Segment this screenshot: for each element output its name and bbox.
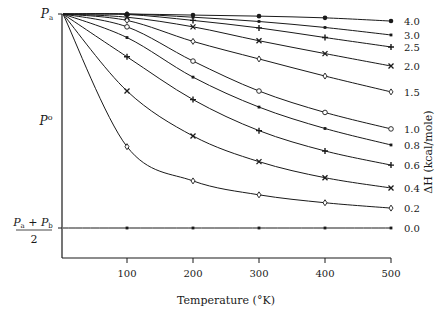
series-label: 0.2 bbox=[404, 203, 420, 214]
x-axis-label: Temperature (°K) bbox=[177, 294, 275, 307]
series-line-4.0 bbox=[63, 14, 391, 21]
y-label-p0: Po bbox=[39, 113, 53, 128]
x-tick-label: 100 bbox=[117, 268, 136, 279]
series-label: 1.0 bbox=[404, 124, 420, 135]
x-tick-label: 300 bbox=[249, 268, 268, 279]
y-label-pmid: Pa + Pb bbox=[12, 216, 53, 230]
y-ticks: PaPoPa + Pb2 bbox=[12, 7, 62, 246]
series-label: 2.0 bbox=[404, 61, 420, 72]
series-markers bbox=[124, 11, 394, 229]
series-label: 0.8 bbox=[404, 140, 420, 151]
series-label: 1.5 bbox=[404, 87, 420, 98]
svg-text:2: 2 bbox=[31, 233, 38, 246]
series-lines bbox=[63, 14, 391, 228]
x-ticks: 100200300400500 bbox=[117, 258, 400, 279]
series-label: 0.4 bbox=[404, 183, 420, 194]
series-label: 4.0 bbox=[404, 16, 420, 27]
series-line-0.2 bbox=[63, 14, 391, 208]
x-tick-label: 500 bbox=[381, 268, 400, 279]
series-label: 3.0 bbox=[404, 30, 420, 41]
series-label: 0.6 bbox=[404, 160, 420, 171]
chart: 100200300400500 PaPoPa + Pb2 4.03.02.52.… bbox=[0, 0, 445, 321]
right-axis-label: ΔH (kcal/mole) bbox=[422, 110, 435, 193]
series-labels: 4.03.02.52.01.51.00.80.60.40.20.0 bbox=[404, 16, 420, 234]
y-label-pa: Pa bbox=[40, 7, 53, 22]
series-line-1.5 bbox=[63, 14, 391, 92]
x-tick-label: 200 bbox=[183, 268, 202, 279]
series-label: 0.0 bbox=[404, 223, 420, 234]
series-line-0.6 bbox=[63, 14, 391, 165]
x-tick-label: 400 bbox=[315, 268, 334, 279]
series-label: 2.5 bbox=[404, 42, 420, 53]
